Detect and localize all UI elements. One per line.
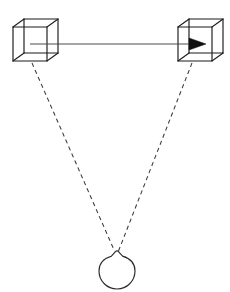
left-cube-depth-edge-bottom-right bbox=[47, 53, 58, 61]
observer-head bbox=[99, 251, 135, 289]
left-cube-depth-edge-bottom-left bbox=[13, 53, 24, 61]
right-cube bbox=[178, 19, 223, 61]
right-cube-depth-edge-top-left bbox=[178, 19, 189, 27]
left-cube-back-face bbox=[24, 19, 58, 53]
right-sight-line bbox=[119, 63, 193, 251]
head-outline-icon bbox=[99, 251, 135, 289]
left-cube-depth-edge-top-right bbox=[47, 19, 58, 27]
left-sight-line bbox=[32, 63, 115, 251]
right-cube-depth-edge-bottom-left bbox=[178, 53, 189, 61]
sight-lines bbox=[32, 63, 192, 251]
diagram-svg bbox=[0, 0, 230, 292]
left-cube-depth-edge-top-left bbox=[13, 19, 24, 27]
motion-arrow bbox=[30, 38, 206, 50]
right-cube-depth-edge-top-right bbox=[212, 19, 223, 27]
figure-canvas: Apparent motion of a wire-frame cube vie… bbox=[0, 0, 230, 292]
right-cube-depth-edge-bottom-right bbox=[212, 53, 223, 61]
left-cube bbox=[13, 19, 58, 61]
motion-arrow-head-icon bbox=[189, 38, 206, 50]
